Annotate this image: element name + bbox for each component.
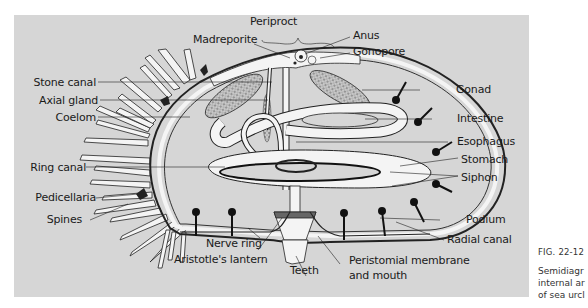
aristotles-lantern <box>274 186 316 264</box>
label-esophagus: Esophagus <box>457 136 515 148</box>
caption-line-1: Semidiagr <box>538 266 584 277</box>
label-anus: Anus <box>353 30 379 42</box>
label-gonad: Gonad <box>456 84 491 96</box>
label-nerve-ring: Nerve ring <box>206 238 262 250</box>
label-periproct: Periproct <box>250 16 297 28</box>
label-axial-gland: Axial gland <box>16 95 98 107</box>
label-coelom: Coelom <box>16 112 96 124</box>
label-radial-canal: Radial canal <box>447 234 512 246</box>
label-spines: Spines <box>16 214 82 226</box>
label-aristotles-lantern: Aristotle's lantern <box>174 254 268 266</box>
label-peristomial-membrane: Peristomial membrane <box>349 255 470 267</box>
label-siphon: Siphon <box>461 172 498 184</box>
label-stone-canal: Stone canal <box>16 77 96 89</box>
label-podium: Podium <box>466 214 506 226</box>
label-gonopore: Gonopore <box>353 46 405 58</box>
caption-line-3: of sea urcl <box>538 290 585 301</box>
label-madreporite: Madreporite <box>193 34 257 46</box>
label-pedicellaria: Pedicellaria <box>16 192 96 204</box>
label-stomach: Stomach <box>461 154 508 166</box>
label-and-mouth: and mouth <box>349 270 407 282</box>
label-ring-canal: Ring canal <box>16 162 86 174</box>
figure-number: FIG. 22-12 <box>538 247 584 257</box>
label-intestine: Intestine <box>457 113 503 125</box>
caption-line-2: internal ar <box>538 278 585 289</box>
label-teeth: Teeth <box>290 265 319 277</box>
